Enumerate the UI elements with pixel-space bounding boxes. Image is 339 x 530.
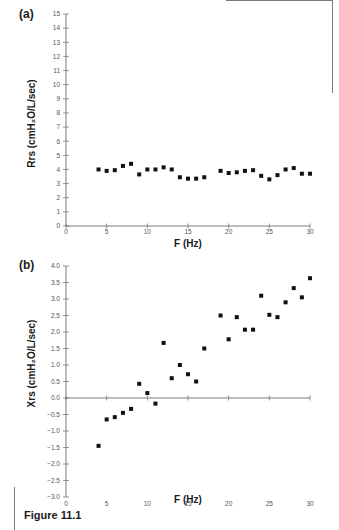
data-point — [308, 172, 312, 176]
data-point — [284, 167, 288, 171]
svg-text:0: 0 — [64, 228, 68, 235]
data-point — [292, 166, 296, 170]
svg-text:11: 11 — [53, 67, 60, 74]
data-point — [121, 164, 125, 168]
svg-text:−3.0: −3.0 — [47, 493, 60, 500]
data-point — [145, 391, 149, 395]
svg-text:30: 30 — [306, 228, 314, 235]
svg-text:10: 10 — [144, 500, 152, 507]
svg-text:−2.5: −2.5 — [47, 477, 60, 484]
svg-text:15: 15 — [53, 10, 61, 17]
data-point — [259, 174, 263, 178]
panel-a-plot: 0123456789101112131415051015202530 — [53, 10, 314, 235]
data-point — [170, 376, 174, 380]
svg-text:−1.5: −1.5 — [47, 444, 60, 451]
svg-text:1.5: 1.5 — [51, 345, 60, 352]
data-point — [308, 276, 312, 280]
data-point — [186, 177, 190, 181]
data-point — [129, 162, 133, 166]
svg-text:4: 4 — [56, 166, 60, 173]
data-point — [235, 315, 239, 319]
data-point — [178, 363, 182, 367]
svg-text:1: 1 — [56, 208, 60, 215]
svg-text:0.0: 0.0 — [51, 394, 60, 401]
data-point — [275, 315, 279, 319]
svg-text:4.0: 4.0 — [51, 262, 60, 269]
svg-text:20: 20 — [225, 228, 233, 235]
svg-text:15: 15 — [184, 500, 192, 507]
data-point — [251, 168, 255, 172]
data-point — [153, 402, 157, 406]
data-point — [202, 347, 206, 351]
data-point — [275, 173, 279, 177]
svg-text:2.5: 2.5 — [51, 312, 60, 319]
svg-text:5: 5 — [105, 228, 109, 235]
data-point — [178, 175, 182, 179]
data-point — [105, 169, 109, 173]
svg-text:12: 12 — [53, 53, 61, 60]
data-point — [235, 170, 239, 174]
data-point — [162, 165, 166, 169]
data-point — [267, 177, 271, 181]
data-point — [97, 167, 101, 171]
data-point — [219, 169, 223, 173]
svg-text:6: 6 — [56, 138, 60, 145]
data-point — [113, 415, 117, 419]
data-point — [300, 172, 304, 176]
data-point — [113, 168, 117, 172]
data-point — [137, 172, 141, 176]
svg-text:0: 0 — [56, 222, 60, 229]
svg-text:−2.0: −2.0 — [47, 460, 60, 467]
svg-text:15: 15 — [184, 228, 192, 235]
data-point — [194, 177, 198, 181]
panel-b-plot: −3.0−2.5−2.0−1.5−1.0−0.50.00.51.01.52.02… — [47, 262, 314, 507]
svg-text:0: 0 — [64, 500, 68, 507]
data-point — [162, 341, 166, 345]
data-point — [267, 313, 271, 317]
svg-text:25: 25 — [266, 500, 274, 507]
svg-text:13: 13 — [53, 39, 61, 46]
data-point — [153, 167, 157, 171]
data-point — [194, 380, 198, 384]
data-point — [259, 294, 263, 298]
svg-text:3.0: 3.0 — [51, 295, 60, 302]
svg-text:8: 8 — [56, 109, 60, 116]
data-point — [292, 286, 296, 290]
svg-text:20: 20 — [225, 500, 233, 507]
data-point — [243, 328, 247, 332]
data-point — [202, 175, 206, 179]
svg-text:3.5: 3.5 — [51, 279, 60, 286]
data-point — [105, 417, 109, 421]
data-point — [243, 169, 247, 173]
svg-text:7: 7 — [56, 123, 60, 130]
data-point — [300, 295, 304, 299]
svg-text:0.5: 0.5 — [51, 378, 60, 385]
svg-text:30: 30 — [306, 500, 314, 507]
svg-text:5: 5 — [56, 152, 60, 159]
svg-text:25: 25 — [266, 228, 274, 235]
data-point — [129, 407, 133, 411]
data-point — [145, 167, 149, 171]
svg-text:−1.0: −1.0 — [47, 427, 60, 434]
svg-text:1.0: 1.0 — [51, 361, 60, 368]
svg-text:14: 14 — [53, 24, 61, 31]
svg-text:3: 3 — [56, 180, 60, 187]
data-point — [227, 337, 231, 341]
svg-text:2.0: 2.0 — [51, 328, 60, 335]
svg-text:5: 5 — [105, 500, 109, 507]
data-point — [137, 382, 141, 386]
svg-text:2: 2 — [56, 194, 60, 201]
svg-text:10: 10 — [144, 228, 152, 235]
data-point — [219, 314, 223, 318]
svg-text:−0.5: −0.5 — [47, 411, 60, 418]
data-point — [186, 372, 190, 376]
data-point — [227, 171, 231, 175]
scatter-plots: 0123456789101112131415051015202530−3.0−2… — [0, 0, 339, 530]
svg-text:9: 9 — [56, 95, 60, 102]
data-point — [97, 444, 101, 448]
svg-text:10: 10 — [53, 81, 61, 88]
data-point — [251, 328, 255, 332]
data-point — [170, 167, 174, 171]
data-point — [121, 411, 125, 415]
data-point — [284, 300, 288, 304]
